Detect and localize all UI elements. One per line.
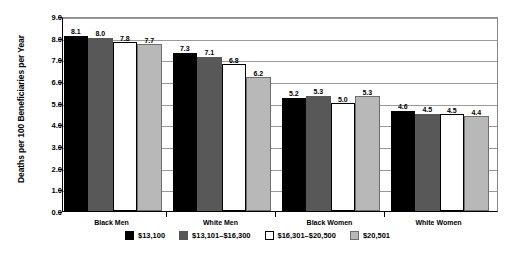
legend-swatch — [179, 231, 188, 240]
category-label: Black Men — [94, 219, 129, 226]
bar: 5.3 — [306, 96, 331, 211]
category-tick-mark — [166, 212, 167, 217]
bar: 4.4 — [464, 116, 489, 211]
y-axis-ticks: 9.08.07.06.05.04.03.02.01.00.0 — [28, 17, 62, 212]
bar: 7.7 — [137, 44, 162, 211]
legend-label: $13,101–$16,300 — [192, 231, 250, 240]
bar-value-label: 5.0 — [338, 96, 348, 103]
bar-value-label: 7.8 — [120, 35, 130, 42]
bars-layer: 8.18.07.87.77.37.16.86.25.25.35.05.34.64… — [63, 18, 497, 211]
bar-value-label: 7.3 — [180, 45, 190, 52]
legend-item: $20,501 — [350, 231, 390, 240]
bar-value-label: 6.2 — [253, 70, 263, 77]
legend-label: $20,501 — [363, 231, 390, 240]
bar: 7.3 — [173, 53, 198, 211]
bar-value-label: 8.0 — [95, 30, 105, 37]
bar-value-label: 7.7 — [144, 37, 154, 44]
bar-chart: Deaths per 100 Beneficiaries per Year 9.… — [0, 0, 515, 254]
category-label: Black Women — [307, 219, 353, 226]
bar: 6.8 — [222, 64, 247, 211]
bar: 4.6 — [391, 111, 416, 211]
y-tick-mark — [58, 212, 62, 213]
legend-swatch — [350, 231, 359, 240]
category-tick-mark — [275, 212, 276, 217]
category-tick-mark — [384, 212, 385, 217]
bar-value-label: 4.6 — [398, 103, 408, 110]
bar-value-label: 5.2 — [289, 90, 299, 97]
bar: 7.8 — [113, 42, 138, 211]
bar-value-label: 4.5 — [447, 107, 457, 114]
bar: 4.5 — [440, 114, 465, 212]
category-label: White Women — [415, 219, 461, 226]
legend-swatch — [265, 231, 274, 240]
bar-value-label: 4.5 — [422, 106, 432, 113]
bar-value-label: 7.1 — [204, 49, 214, 56]
plot-area: 8.18.07.87.77.37.16.86.25.25.35.05.34.64… — [62, 17, 498, 212]
legend-item: $13,100 — [125, 231, 165, 240]
bar: 8.0 — [88, 38, 113, 211]
legend-item: $16,301–$20,500 — [265, 231, 336, 240]
bar-value-label: 5.3 — [362, 89, 372, 96]
legend-label: $13,100 — [138, 231, 165, 240]
category-label: White Men — [203, 219, 238, 226]
legend-swatch — [125, 231, 134, 240]
chart-legend: $13,100$13,101–$16,300$16,301–$20,500$20… — [0, 231, 515, 240]
bar: 5.3 — [355, 96, 380, 211]
bar: 5.2 — [282, 98, 307, 211]
bar: 7.1 — [197, 57, 222, 211]
bar-value-label: 6.8 — [229, 57, 239, 64]
legend-label: $16,301–$20,500 — [278, 231, 336, 240]
bar-value-label: 5.3 — [313, 88, 323, 95]
bar: 5.0 — [331, 103, 356, 211]
bar: 6.2 — [246, 77, 271, 211]
legend-item: $13,101–$16,300 — [179, 231, 250, 240]
bar: 8.1 — [64, 36, 89, 212]
bar: 4.5 — [415, 114, 440, 212]
y-axis-title: Deaths per 100 Beneficiaries per Year — [16, 14, 26, 204]
bar-value-label: 8.1 — [71, 28, 81, 35]
bar-value-label: 4.4 — [471, 109, 481, 116]
